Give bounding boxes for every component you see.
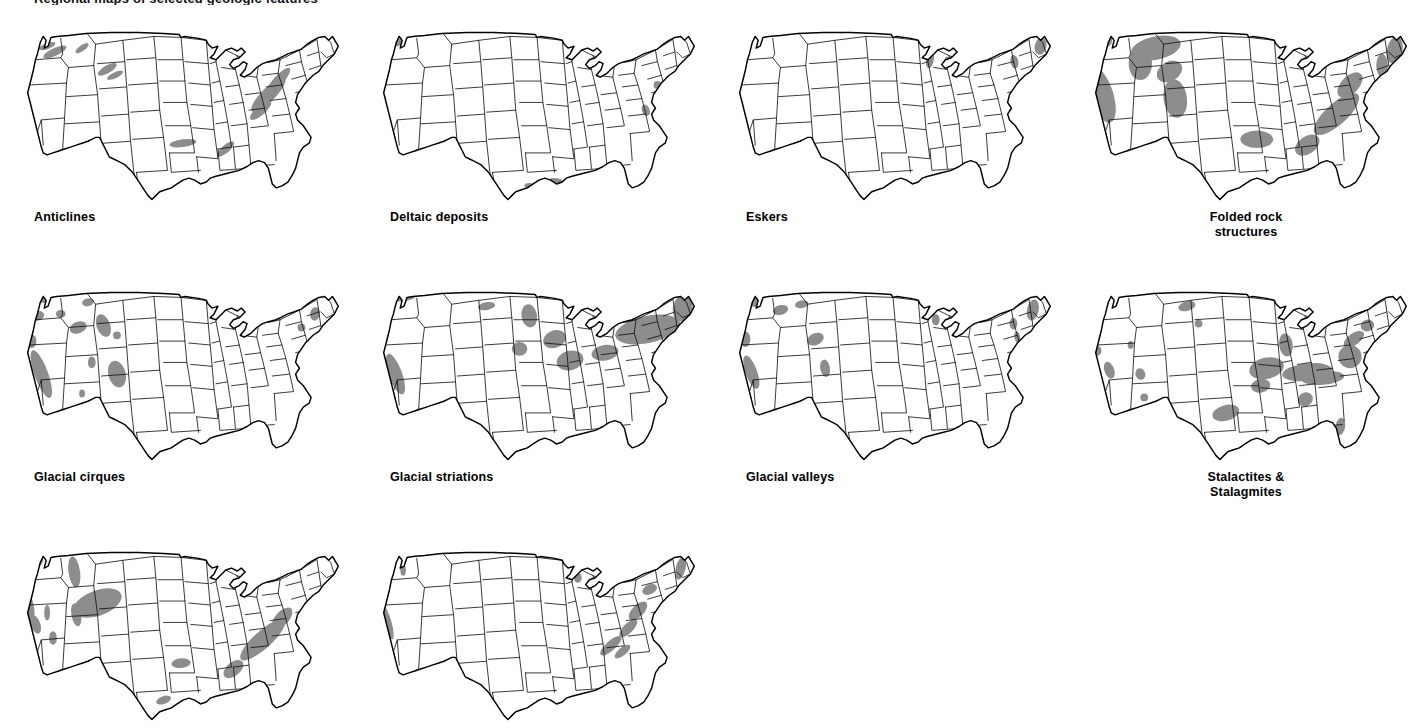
- state-border: [65, 95, 100, 124]
- figure-title: Regional maps of selected geologic featu…: [0, 0, 1425, 5]
- state-border: [1197, 58, 1226, 85]
- state-border: [622, 73, 638, 87]
- map-panel[interactable]: Stalactites & Stalagmites: [1068, 274, 1424, 534]
- state-border: [421, 95, 456, 124]
- map-panel[interactable]: Anticlines: [0, 14, 356, 274]
- state-border: [1175, 141, 1202, 180]
- state-border: [492, 657, 523, 692]
- feature-region: [155, 694, 172, 707]
- us-map-figure: [730, 24, 1060, 210]
- state-border: [1127, 378, 1133, 411]
- state-border: [582, 329, 596, 346]
- state-border: [788, 149, 821, 170]
- state-border: [510, 556, 539, 579]
- state-border: [76, 409, 109, 430]
- state-border: [1237, 413, 1268, 432]
- state-border: [866, 296, 895, 319]
- map-panel[interactable]: Glacial cirques: [0, 274, 356, 534]
- state-boundaries-layer: [30, 295, 335, 444]
- state-border: [1259, 85, 1280, 106]
- state-border: [296, 99, 310, 103]
- state-border: [1298, 345, 1312, 364]
- state-border: [107, 688, 109, 700]
- state-border: [41, 640, 43, 665]
- state-border: [479, 556, 512, 579]
- state-border: [601, 597, 617, 614]
- state-border: [648, 62, 662, 79]
- map-panel[interactable]: [356, 534, 712, 728]
- state-border: [131, 603, 160, 632]
- state-border: [893, 297, 920, 323]
- state-border: [274, 134, 276, 161]
- state-border: [1286, 409, 1315, 430]
- state-border: [189, 324, 210, 345]
- state-border: [423, 586, 454, 617]
- state-border: [872, 60, 897, 81]
- state-border: [424, 295, 451, 328]
- state-border: [189, 64, 210, 85]
- state-border: [432, 409, 465, 430]
- state-border: [292, 62, 306, 79]
- state-border: [1265, 417, 1267, 433]
- state-border: [522, 102, 547, 125]
- map-panel[interactable]: Folded rock structures: [1068, 14, 1424, 274]
- state-border: [1237, 153, 1268, 172]
- state-border: [568, 62, 576, 83]
- state-border: [296, 75, 310, 92]
- state-border: [432, 382, 457, 409]
- map-label: Folded rock structures: [1068, 210, 1425, 240]
- state-border: [843, 83, 872, 112]
- state-border: [107, 661, 134, 700]
- state-border: [1171, 374, 1198, 403]
- state-border: [233, 147, 235, 168]
- map-panel[interactable]: Glacial valleys: [712, 274, 1068, 534]
- state-border: [266, 333, 282, 347]
- feature-region: [1195, 320, 1203, 328]
- figure-title-strip: Regional maps of selected geologic featu…: [0, 0, 1425, 5]
- state-border: [457, 347, 484, 376]
- state-border: [1342, 134, 1344, 161]
- state-border: [1364, 99, 1378, 103]
- state-border: [570, 81, 580, 102]
- map-panel[interactable]: Glacial striations: [356, 274, 712, 534]
- state-border: [415, 118, 421, 151]
- state-border: [103, 114, 130, 143]
- state-border: [216, 621, 228, 644]
- feature-region: [641, 582, 659, 597]
- state-border: [212, 62, 220, 83]
- state-border: [1249, 297, 1276, 323]
- feature-shading-layer: [379, 556, 688, 661]
- state-border: [492, 137, 523, 172]
- state-border: [928, 361, 940, 384]
- state-border: [193, 106, 214, 129]
- state-border: [459, 634, 486, 663]
- state-border: [423, 66, 454, 97]
- state-border: [1175, 401, 1202, 440]
- state-border: [123, 556, 156, 579]
- map-panel[interactable]: Eskers: [712, 14, 1068, 274]
- state-border: [189, 584, 210, 605]
- state-border: [630, 114, 649, 133]
- state-border: [605, 93, 621, 110]
- map-label: Stalactites & Stalagmites: [1068, 470, 1425, 500]
- state-border: [270, 345, 286, 361]
- state-border: [525, 153, 556, 172]
- state-border: [622, 593, 638, 607]
- state-border: [903, 85, 924, 106]
- state-border: [588, 102, 604, 125]
- state-border: [123, 296, 156, 319]
- state-border: [1109, 380, 1111, 405]
- state-border: [1228, 60, 1253, 81]
- state-border: [574, 122, 588, 149]
- map-panel[interactable]: [0, 534, 356, 728]
- state-border: [154, 36, 183, 59]
- map-panel[interactable]: Deltaic deposits: [356, 14, 712, 274]
- state-border: [487, 343, 516, 372]
- state-border: [479, 36, 512, 59]
- state-border: [986, 374, 1005, 393]
- state-border: [457, 607, 484, 636]
- state-border: [1232, 81, 1255, 102]
- state-border: [909, 417, 911, 433]
- state-border: [251, 368, 268, 387]
- feature-region: [379, 605, 396, 641]
